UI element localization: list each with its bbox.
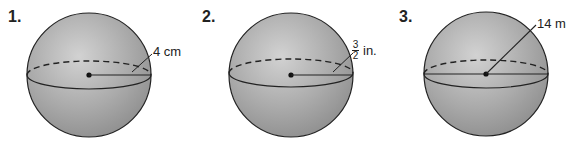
fraction-numerator: 3 xyxy=(353,40,359,50)
fraction-denominator: 2 xyxy=(353,51,359,61)
problem-number-2: 2. xyxy=(202,8,215,26)
problem-number-3: 3. xyxy=(399,8,412,26)
radius-label-2: 3 2 in. xyxy=(352,40,377,61)
spheres-diagram xyxy=(0,0,567,152)
sphere-2 xyxy=(229,13,353,137)
radius-label-3: 14 m xyxy=(537,16,566,31)
radius-label-1: 4 cm xyxy=(153,44,181,59)
unit: in. xyxy=(363,43,377,58)
sphere-3 xyxy=(424,12,548,136)
fraction: 3 2 xyxy=(352,40,359,61)
sphere-1 xyxy=(27,13,152,137)
problem-number-1: 1. xyxy=(8,8,21,26)
